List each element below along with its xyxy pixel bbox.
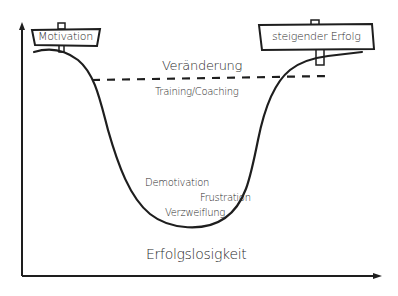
x-axis-arrow-icon <box>373 273 382 279</box>
x-axis <box>22 273 382 279</box>
sign-label-motivation: Motivation <box>38 30 93 43</box>
threshold-dashed-line <box>92 76 330 80</box>
label-training-coaching: Training/Coaching <box>155 86 239 97</box>
y-axis <box>19 22 25 276</box>
change-curve <box>34 50 362 228</box>
label-demotivation: Demotivation <box>145 177 209 188</box>
label-verzweiflung: Verzweiflung <box>165 207 225 218</box>
label-erfolgslosigkeit: Erfolgslosigkeit <box>146 246 247 262</box>
y-axis-arrow-icon <box>19 22 25 30</box>
label-frustration: Frustration <box>200 192 251 203</box>
sign-label-steigender-erfolg: steigender Erfolg <box>272 30 361 43</box>
label-veraenderung: Veränderung <box>162 58 242 73</box>
